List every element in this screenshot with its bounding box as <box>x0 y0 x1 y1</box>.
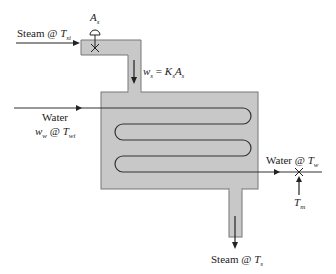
water-inlet-arrow <box>76 105 82 111</box>
water-inlet-flow-label: ww @ Twi <box>35 125 75 140</box>
steam-inlet-label: Steam @ Tsi <box>17 27 71 42</box>
water-inlet-label: Water <box>42 111 68 123</box>
sensor-arrow <box>296 176 302 182</box>
steam-inlet-arrow <box>73 40 80 46</box>
steam-flow-equation: ws = KsAs <box>143 65 185 80</box>
steam-outlet-arrow <box>232 242 238 249</box>
steam-outlet-label: Steam @ Ts <box>211 253 263 268</box>
valve-label: As <box>89 11 100 26</box>
water-outlet-arrow <box>274 169 280 175</box>
heat-exchanger-diagram: As Steam @ Tsi ws = KsAs Water ww @ Twi … <box>0 0 336 274</box>
sensor-label: Tm <box>294 196 305 211</box>
water-outlet-label: Water @ Tw <box>266 154 319 169</box>
steam-inlet-pipe <box>81 40 141 92</box>
